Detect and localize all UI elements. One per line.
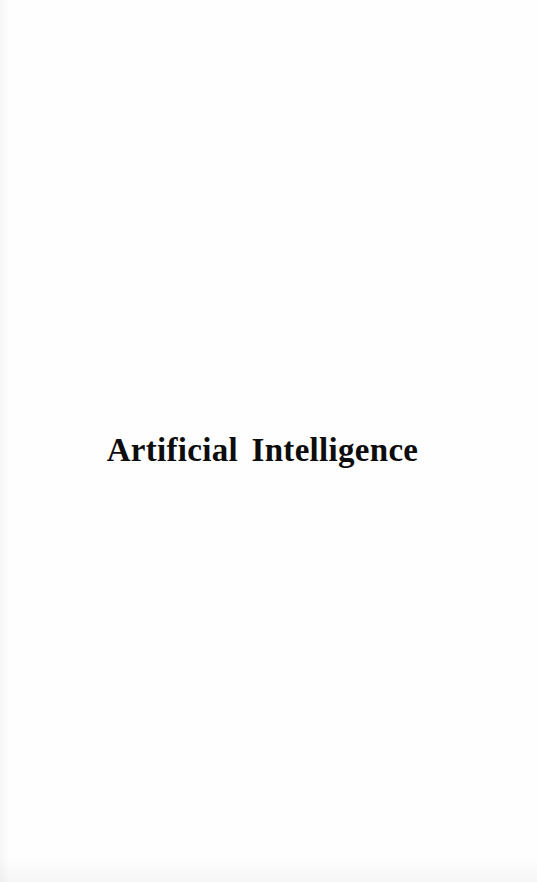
page-title: Artificial Intelligence [107,428,419,472]
scanned-page: Artificial Intelligence [0,0,537,882]
scan-bottom-edge-shadow [0,856,537,882]
title-block: Artificial Intelligence [0,428,537,472]
